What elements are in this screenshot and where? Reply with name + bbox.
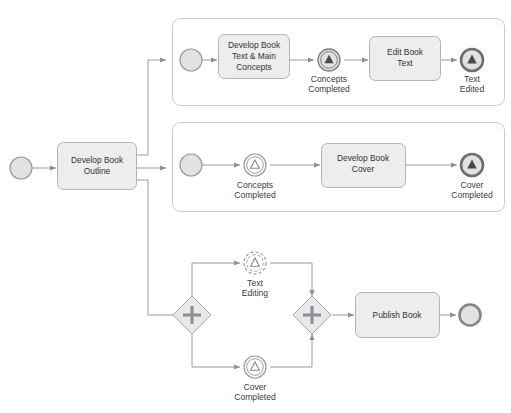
flow-split-to-cover-completed bbox=[192, 334, 240, 367]
task-develop-book-text-label-line1: Develop Book bbox=[228, 40, 281, 50]
flow-split-to-text-editing bbox=[192, 263, 240, 296]
end-event-text-edited-label-line2: Edited bbox=[460, 84, 485, 94]
event-text-editing-label-line2: Editing bbox=[242, 288, 268, 298]
event-cover-completed-publish-lane-label-line2: Completed bbox=[234, 392, 276, 402]
task-develop-book-text-label-line3: Concepts bbox=[236, 62, 271, 72]
bpmn-diagram: Develop Book Outline Develop Book Text &… bbox=[0, 0, 511, 413]
parallel-gateway-join[interactable] bbox=[293, 296, 331, 334]
event-cover-completed-publish-lane-label-line1: Cover bbox=[244, 382, 267, 392]
task-develop-book-cover-label-line2: Cover bbox=[352, 164, 375, 174]
task-publish-book-label: Publish Book bbox=[373, 310, 423, 320]
end-event-cover-completed[interactable] bbox=[461, 154, 483, 176]
task-edit-book-text-label-line1: Edit Book bbox=[387, 47, 424, 57]
task-develop-book-outline-label-line2: Outline bbox=[84, 166, 111, 176]
event-text-editing-label-line1: Text bbox=[247, 278, 263, 288]
end-event-cover-completed-label-line1: Cover bbox=[461, 180, 484, 190]
task-develop-book-text-label-line2: Text & Main bbox=[232, 51, 276, 61]
flow-outline-to-text-lane bbox=[137, 60, 166, 155]
end-event-text-edited[interactable] bbox=[461, 49, 483, 71]
subprocess-start-event-text[interactable] bbox=[180, 49, 202, 71]
task-develop-book-cover-label-line1: Develop Book bbox=[337, 153, 390, 163]
flow-cover-completed-to-join bbox=[270, 334, 312, 367]
end-event-text-edited-label-line1: Text bbox=[464, 74, 480, 84]
event-concepts-completed-text-lane-label-line1: Concepts bbox=[311, 74, 347, 84]
parallel-gateway-split[interactable] bbox=[173, 296, 211, 334]
intermediate-throw-event-concepts-completed[interactable] bbox=[318, 49, 340, 71]
event-concepts-completed-text-lane-label-line2: Completed bbox=[308, 84, 350, 94]
bpmn-diagram-canvas: Develop Book Outline Develop Book Text &… bbox=[0, 0, 511, 413]
intermediate-catch-event-concepts-completed[interactable] bbox=[244, 154, 266, 176]
task-edit-book-text-label-line2: Text bbox=[397, 58, 413, 68]
process-end-event[interactable] bbox=[460, 305, 481, 326]
event-concepts-completed-cover-lane-label-line1: Concepts bbox=[237, 180, 273, 190]
start-event[interactable] bbox=[10, 157, 32, 179]
end-event-cover-completed-label-line2: Completed bbox=[451, 190, 493, 200]
flow-text-editing-to-join bbox=[270, 263, 312, 296]
intermediate-catch-event-cover-completed[interactable] bbox=[244, 356, 266, 378]
event-concepts-completed-cover-lane-label-line2: Completed bbox=[234, 190, 276, 200]
subprocess-start-event-cover[interactable] bbox=[180, 154, 202, 176]
task-develop-book-outline-label-line1: Develop Book bbox=[71, 155, 124, 165]
intermediate-event-text-editing[interactable] bbox=[244, 252, 266, 274]
